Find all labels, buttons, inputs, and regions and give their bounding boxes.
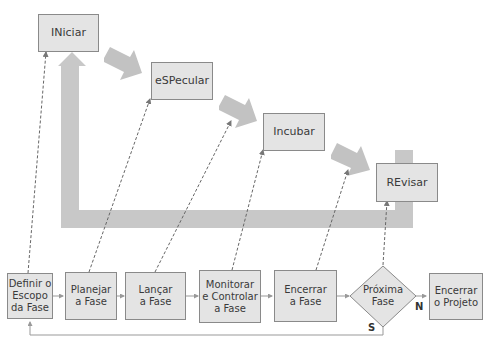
step-monitorar-controlar: Monitorar e Controlar a Fase	[199, 270, 261, 323]
step-planejar-fase: Planejar a Fase	[65, 272, 117, 320]
phase-especular: eSPecular	[151, 62, 213, 100]
phase-iniciar: INiciar	[38, 14, 99, 52]
step-encerrar-fase: Encerrar a Fase	[274, 270, 337, 322]
phase-incubar: Incubar	[263, 113, 325, 151]
step-definir-escopo: Definir o Escopo da Fase	[7, 273, 53, 319]
step-lancar-fase: Lançar a Fase	[125, 272, 186, 320]
step-encerrar-projeto: Encerrar o Projeto	[429, 273, 483, 320]
feedback-loop-arrow	[58, 52, 413, 228]
label-yes: S	[368, 322, 375, 333]
label-no: N	[415, 301, 423, 312]
decision-proxima-fase: Próxima Fase	[358, 284, 408, 308]
phase-revisar: REvisar	[376, 163, 438, 202]
phase-transition-arrow-3	[331, 143, 370, 176]
phase-transition-arrow-2	[219, 95, 257, 128]
phase-transition-arrow-1	[104, 47, 142, 80]
